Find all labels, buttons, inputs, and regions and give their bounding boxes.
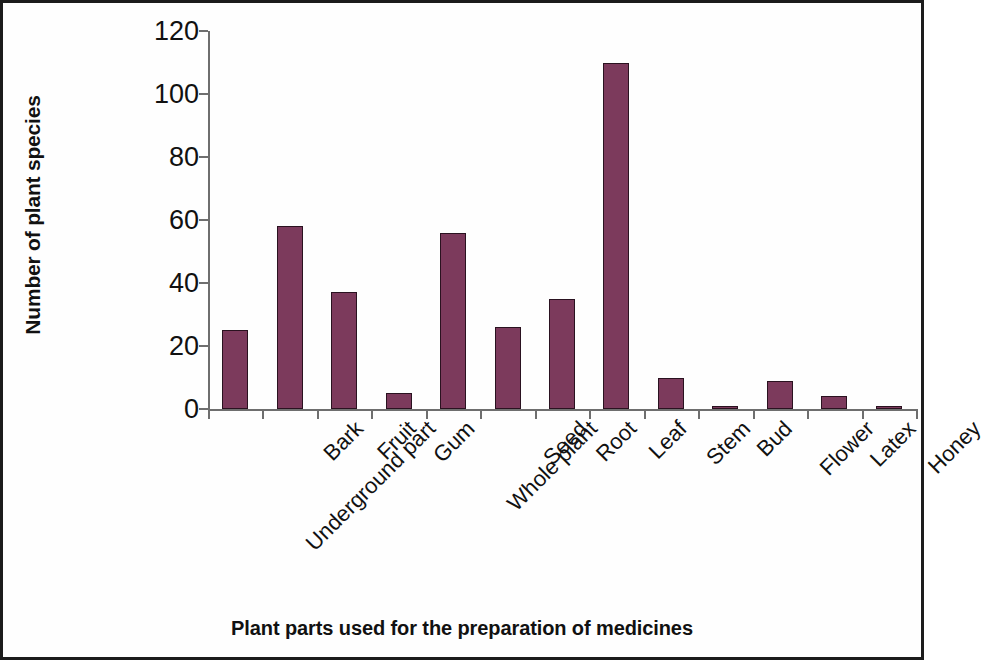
y-axis-tick-label: 120 <box>79 16 199 47</box>
x-axis-tick-mark <box>644 409 646 419</box>
x-axis-category-label: Leaf <box>644 413 695 464</box>
x-axis-category-label: Gum <box>428 413 483 468</box>
bar <box>440 233 466 409</box>
bar <box>277 226 303 409</box>
x-axis-tick-mark <box>753 409 755 419</box>
x-axis-category-label: Root <box>591 413 645 467</box>
x-axis-title: Plant parts used for the preparation of … <box>3 617 921 640</box>
bar <box>495 327 521 409</box>
x-axis-tick-mark <box>371 409 373 419</box>
x-axis-tick-mark <box>208 409 210 419</box>
x-axis-tick-mark <box>535 409 537 419</box>
bar <box>331 292 357 409</box>
y-axis-tick-label: 0 <box>79 394 199 425</box>
bar <box>876 406 902 409</box>
y-axis-title: Number of plant species <box>21 35 45 395</box>
y-axis-tick-mark <box>199 282 208 284</box>
bar <box>386 393 412 409</box>
bar <box>821 396 847 409</box>
y-axis-tick-mark <box>199 93 208 95</box>
y-axis-tick-mark <box>199 30 208 32</box>
x-axis-category-label: Stem <box>701 413 759 471</box>
plot-area: 020406080100120 Underground partBarkFrui… <box>208 31 916 409</box>
y-axis-tick-mark <box>199 156 208 158</box>
x-axis-tick-mark <box>807 409 809 419</box>
y-axis-tick-label: 40 <box>79 268 199 299</box>
x-axis-category-label: Honey <box>923 413 985 479</box>
y-axis-tick-mark <box>199 408 208 410</box>
y-axis-tick-label: 80 <box>79 142 199 173</box>
x-axis-category-label: Bud <box>752 413 801 462</box>
x-axis-category-label: Bark <box>318 413 371 466</box>
x-axis-tick-mark <box>317 409 319 419</box>
y-axis-tick-label: 60 <box>79 205 199 236</box>
y-axis-tick-label: 100 <box>79 79 199 110</box>
bar <box>767 381 793 409</box>
bar <box>712 406 738 409</box>
bar <box>603 63 629 410</box>
y-axis-line <box>208 31 210 409</box>
x-axis-tick-mark <box>262 409 264 419</box>
x-axis-tick-mark <box>916 409 918 419</box>
y-axis-tick-mark <box>199 219 208 221</box>
x-axis-category-label: Underground part <box>301 413 444 556</box>
bar <box>549 299 575 409</box>
bar <box>658 378 684 410</box>
bar <box>222 330 248 409</box>
y-axis-tick-label: 20 <box>79 331 199 362</box>
x-axis-tick-mark <box>698 409 700 419</box>
x-axis-category-label: Latex <box>865 413 924 472</box>
x-axis-tick-mark <box>480 409 482 419</box>
x-axis-line <box>208 409 916 411</box>
y-axis-tick-mark <box>199 345 208 347</box>
